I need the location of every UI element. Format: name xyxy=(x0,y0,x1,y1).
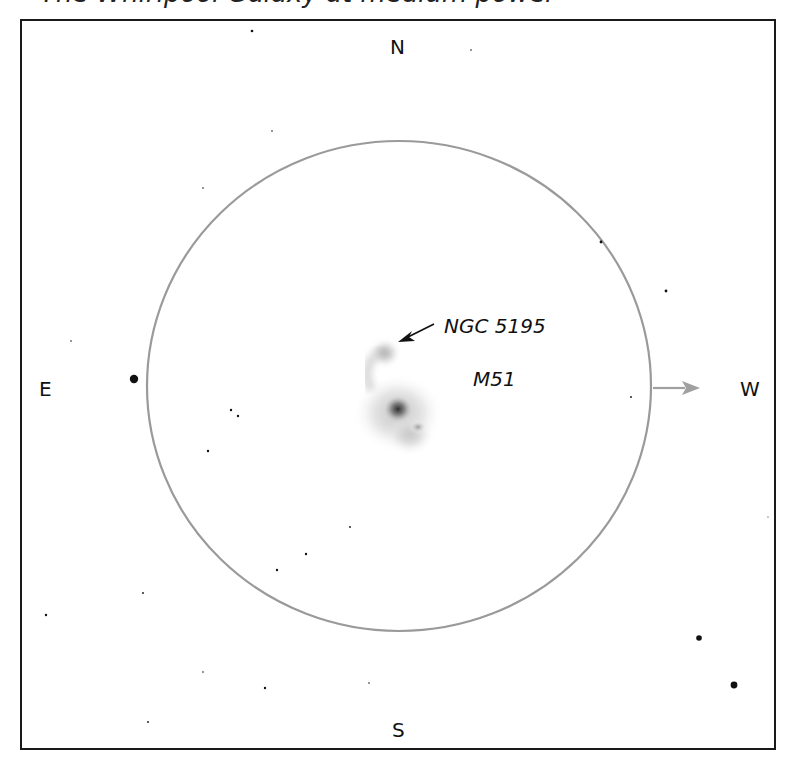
direction-north-label: N xyxy=(390,37,405,57)
star xyxy=(142,592,144,594)
m51-label: M51 xyxy=(473,369,516,389)
star xyxy=(600,241,603,244)
star xyxy=(207,450,209,452)
drift-arrow-icon xyxy=(653,381,700,395)
star xyxy=(70,340,72,342)
star xyxy=(202,671,204,673)
ngc5195-label: NGC 5195 xyxy=(444,316,546,336)
star xyxy=(696,635,702,641)
star xyxy=(767,516,768,517)
star xyxy=(305,553,307,555)
direction-east-label: E xyxy=(39,379,52,399)
direction-west-label: W xyxy=(740,379,760,399)
star xyxy=(264,687,266,689)
ngc5195-companion xyxy=(372,341,398,365)
star xyxy=(271,130,273,132)
star xyxy=(230,409,232,411)
star xyxy=(202,187,204,189)
star xyxy=(276,569,278,571)
m51-galaxy xyxy=(354,350,442,453)
star-field xyxy=(0,0,787,762)
star xyxy=(45,614,47,616)
star xyxy=(130,375,138,383)
star xyxy=(368,682,370,684)
star xyxy=(630,396,632,398)
star xyxy=(251,30,254,33)
star xyxy=(731,682,738,689)
star xyxy=(147,721,149,723)
pointer-arrow-icon xyxy=(398,324,434,342)
direction-south-label: S xyxy=(392,720,405,740)
star xyxy=(349,526,351,528)
star xyxy=(665,290,668,293)
star xyxy=(470,49,472,51)
star xyxy=(237,415,239,417)
